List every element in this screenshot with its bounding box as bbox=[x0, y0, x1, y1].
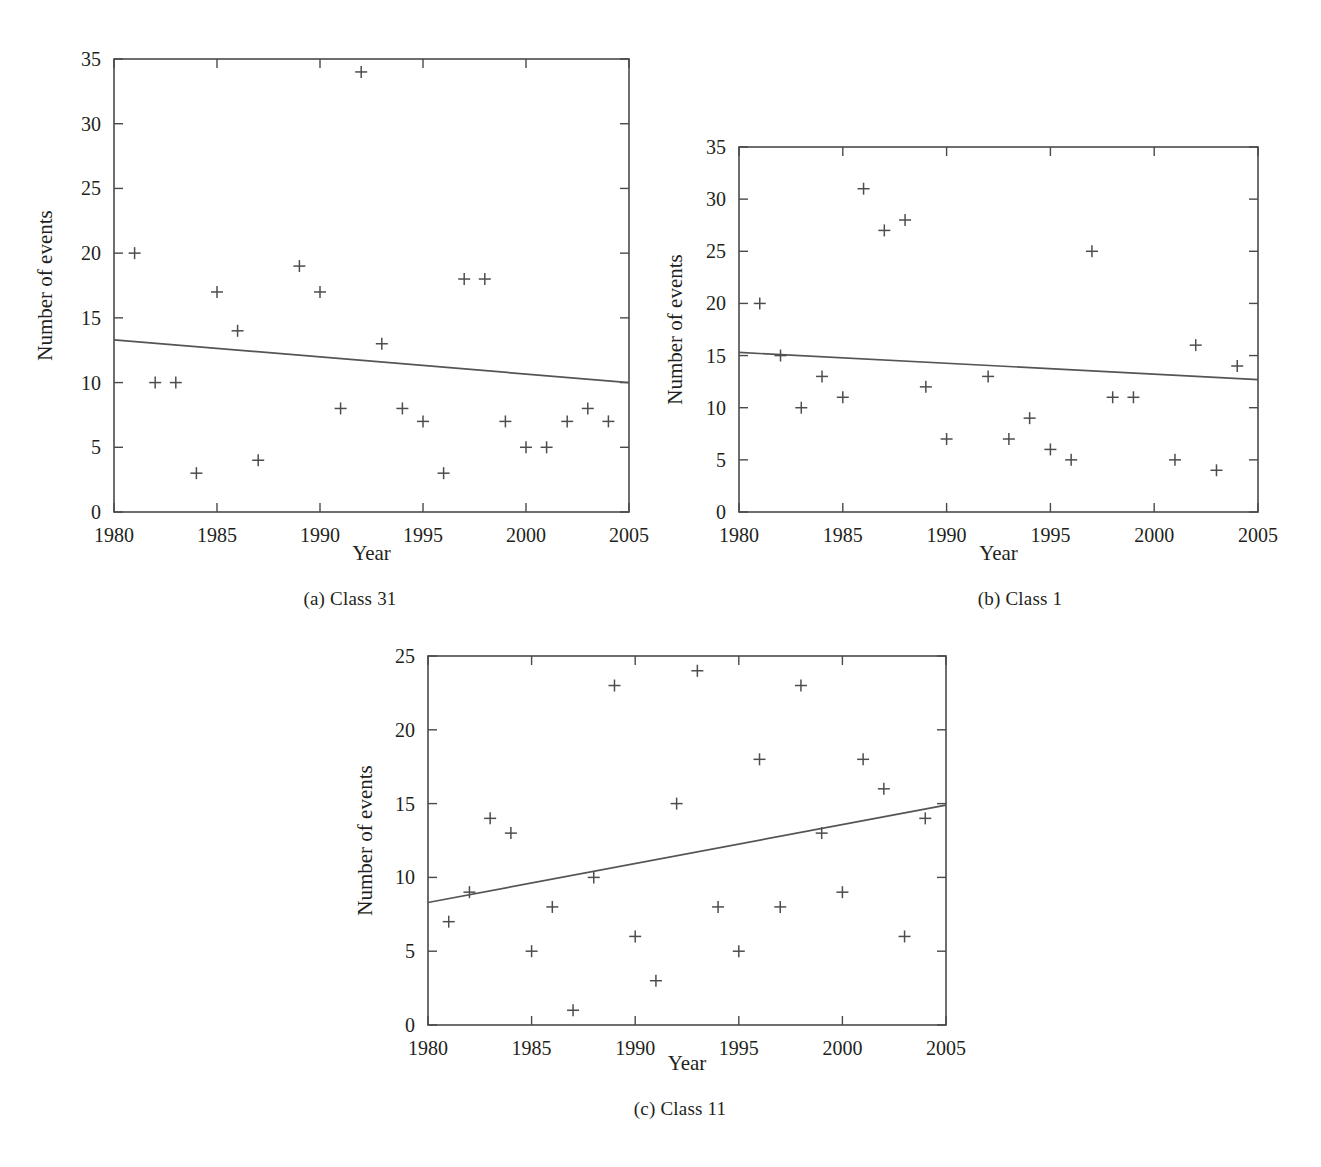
data-point bbox=[754, 753, 766, 765]
data-point bbox=[733, 945, 745, 957]
plot-frame-b bbox=[739, 147, 1258, 512]
data-point bbox=[671, 798, 683, 810]
x-tick-label-b-0: 1980 bbox=[719, 524, 759, 546]
data-point bbox=[919, 812, 931, 824]
data-point bbox=[775, 350, 787, 362]
y-tick-label-a-0: 0 bbox=[91, 501, 101, 523]
data-point bbox=[567, 1004, 579, 1016]
data-point bbox=[520, 441, 532, 453]
x-tick-label-b-1: 1985 bbox=[823, 524, 863, 546]
x-tick-label-b-3: 1995 bbox=[1030, 524, 1070, 546]
scatter-plot-b: 05101520253035198019851990199520002005Ye… bbox=[660, 0, 1321, 580]
data-point bbox=[190, 467, 202, 479]
y-axis-title-b: Number of events bbox=[663, 254, 687, 404]
chart-panel-b: 05101520253035198019851990199520002005Ye… bbox=[660, 0, 1321, 580]
data-points-a bbox=[129, 66, 615, 479]
x-axis-title-c: Year bbox=[668, 1051, 707, 1075]
data-point bbox=[314, 286, 326, 298]
data-points-c bbox=[443, 665, 932, 1016]
data-point bbox=[795, 402, 807, 414]
chart-panel-a: 05101520253035198019851990199520002005Ye… bbox=[0, 0, 680, 580]
y-tick-label-b-3: 15 bbox=[706, 345, 726, 367]
data-point bbox=[816, 370, 828, 382]
x-tick-label-c-1: 1985 bbox=[512, 1037, 552, 1059]
data-point bbox=[355, 66, 367, 78]
y-tick-label-c-0: 0 bbox=[405, 1014, 415, 1036]
data-point bbox=[505, 827, 517, 839]
x-tick-label-c-0: 1980 bbox=[408, 1037, 448, 1059]
data-point bbox=[754, 297, 766, 309]
trendline-b bbox=[739, 352, 1258, 379]
x-axis-title-a: Year bbox=[352, 541, 391, 565]
data-point bbox=[479, 273, 491, 285]
scatter-plot-a: 05101520253035198019851990199520002005Ye… bbox=[0, 0, 680, 580]
x-tick-label-c-5: 2005 bbox=[926, 1037, 966, 1059]
data-point bbox=[1024, 412, 1036, 424]
chart-panel-c: 0510152025198019851990199520002005YearNu… bbox=[330, 600, 1010, 1100]
y-axis-title-a: Number of events bbox=[33, 210, 57, 360]
data-point bbox=[858, 183, 870, 195]
scatter-plot-c: 0510152025198019851990199520002005YearNu… bbox=[330, 600, 1010, 1100]
data-point bbox=[499, 415, 511, 427]
x-tick-label-a-4: 2000 bbox=[506, 524, 546, 546]
figure-root: 05101520253035198019851990199520002005Ye… bbox=[0, 0, 1321, 1167]
y-tick-label-b-0: 0 bbox=[716, 501, 726, 523]
data-point bbox=[920, 381, 932, 393]
data-point bbox=[396, 402, 408, 414]
y-tick-label-b-7: 35 bbox=[706, 136, 726, 158]
y-tick-label-c-1: 5 bbox=[405, 940, 415, 962]
data-point bbox=[438, 467, 450, 479]
data-point bbox=[211, 286, 223, 298]
data-point bbox=[837, 391, 849, 403]
trendline-c bbox=[428, 805, 946, 902]
data-point bbox=[526, 945, 538, 957]
data-point bbox=[608, 680, 620, 692]
y-tick-label-b-2: 10 bbox=[706, 397, 726, 419]
data-point bbox=[443, 916, 455, 928]
data-point bbox=[582, 402, 594, 414]
x-axis-title-b: Year bbox=[979, 541, 1018, 565]
data-point bbox=[602, 415, 614, 427]
data-point bbox=[982, 370, 994, 382]
data-point bbox=[541, 441, 553, 453]
y-tick-label-c-3: 15 bbox=[395, 793, 415, 815]
data-point bbox=[376, 338, 388, 350]
data-point bbox=[857, 753, 869, 765]
data-point bbox=[941, 433, 953, 445]
y-tick-label-c-5: 25 bbox=[395, 645, 415, 667]
y-tick-label-b-6: 30 bbox=[706, 188, 726, 210]
x-tick-label-a-5: 2005 bbox=[609, 524, 649, 546]
data-point bbox=[417, 415, 429, 427]
y-tick-label-a-5: 25 bbox=[81, 177, 101, 199]
plot-frame-a bbox=[114, 59, 629, 512]
data-point bbox=[1127, 391, 1139, 403]
data-point bbox=[129, 247, 141, 259]
data-point bbox=[650, 975, 662, 987]
x-tick-label-b-4: 2000 bbox=[1134, 524, 1174, 546]
data-point bbox=[252, 454, 264, 466]
data-point bbox=[1086, 245, 1098, 257]
data-point bbox=[878, 783, 890, 795]
data-point bbox=[1003, 433, 1015, 445]
data-point bbox=[1231, 360, 1243, 372]
y-tick-label-a-3: 15 bbox=[81, 307, 101, 329]
y-tick-label-a-6: 30 bbox=[81, 113, 101, 135]
data-point bbox=[170, 377, 182, 389]
data-point bbox=[1210, 464, 1222, 476]
data-point bbox=[588, 871, 600, 883]
data-point bbox=[484, 812, 496, 824]
caption-panel-c: (c) Class 11 bbox=[540, 1098, 820, 1120]
data-point bbox=[899, 930, 911, 942]
data-point bbox=[691, 665, 703, 677]
y-tick-label-b-5: 25 bbox=[706, 240, 726, 262]
y-tick-label-a-2: 10 bbox=[81, 372, 101, 394]
data-point bbox=[1190, 339, 1202, 351]
x-tick-label-b-5: 2005 bbox=[1238, 524, 1278, 546]
data-point bbox=[463, 886, 475, 898]
plot-frame-c bbox=[428, 656, 946, 1025]
data-point bbox=[232, 325, 244, 337]
data-point bbox=[878, 224, 890, 236]
x-tick-label-c-2: 1990 bbox=[615, 1037, 655, 1059]
y-tick-label-b-1: 5 bbox=[716, 449, 726, 471]
data-point bbox=[774, 901, 786, 913]
